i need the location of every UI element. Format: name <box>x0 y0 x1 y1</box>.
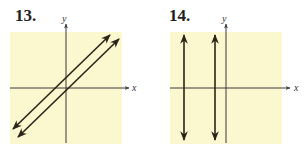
figure-number: 13. <box>15 6 36 26</box>
figure-number: 14. <box>169 6 190 26</box>
x-axis-label: x <box>294 82 298 93</box>
figure-14: 14. y x <box>154 0 308 155</box>
x-axis-label: x <box>132 82 136 93</box>
y-axis-label: y <box>62 13 66 24</box>
y-axis-label: y <box>222 13 226 24</box>
figure-13: 13. y x <box>0 0 154 155</box>
